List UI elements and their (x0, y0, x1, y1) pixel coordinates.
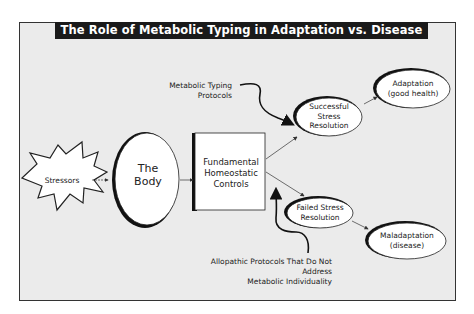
allopathic-line2: Metabolic Individuality (180, 277, 332, 287)
adaptation-label: Adaptation (good health) (379, 79, 447, 99)
maladaptation-label: Maladaptation (disease) (370, 231, 444, 251)
adaptation-label-line2: (good health) (379, 89, 447, 99)
successful-label-line2: Stress (299, 112, 359, 122)
adaptation-label-line1: Adaptation (379, 79, 447, 89)
successful-label: Successful Stress Resolution (299, 102, 359, 131)
controls-label-line1: Fundamental (197, 157, 265, 168)
stressors-label: Stressors (32, 176, 92, 186)
controls-label: Fundamental Homeostatic Controls (197, 157, 265, 190)
metabolic-typing-line1: Metabolic Typing (150, 81, 232, 91)
metabolic-typing-line2: Protocols (150, 91, 232, 101)
metabolic-typing-annotation: Metabolic Typing Protocols (150, 81, 232, 101)
body-label-line1: The (120, 162, 176, 175)
allopathic-annotation: Allopathic Protocols That Do Not Address… (180, 257, 332, 287)
successful-label-line1: Successful (299, 102, 359, 112)
edge-successful-adaptation (364, 97, 377, 104)
maladaptation-label-line1: Maladaptation (370, 231, 444, 241)
edge-controls-failed (266, 172, 304, 196)
body-label: The Body (120, 162, 176, 188)
controls-label-line3: Controls (197, 179, 265, 190)
failed-label-line1: Failed Stress (290, 203, 350, 213)
successful-label-line3: Resolution (299, 121, 359, 131)
edge-controls-successful (266, 137, 297, 159)
maladaptation-label-line2: (disease) (370, 241, 444, 251)
edge-failed-maladaptation (352, 221, 368, 229)
failed-label-line2: Resolution (290, 213, 350, 223)
allopathic-line1: Allopathic Protocols That Do Not Address (180, 257, 332, 277)
failed-label: Failed Stress Resolution (290, 203, 350, 223)
controls-label-line2: Homeostatic (197, 168, 265, 179)
body-label-line2: Body (120, 175, 176, 188)
metabolic-typing-arrow (240, 84, 292, 124)
